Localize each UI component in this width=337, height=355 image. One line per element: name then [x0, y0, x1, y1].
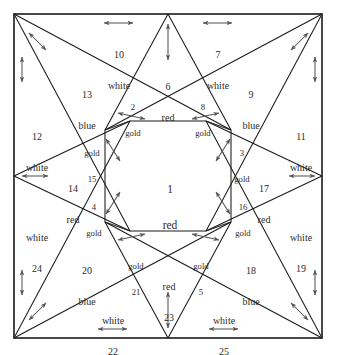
star-construction-lines — [14, 14, 322, 338]
arrow-corner-tr — [291, 33, 308, 50]
arrow-piece-5 — [192, 234, 219, 240]
pattern-linework — [0, 0, 337, 355]
arrow-piece-3 — [216, 139, 230, 161]
arrow-piece-2 — [118, 113, 145, 119]
star-pattern-diagram: 1 red 2 gold 3 gold 4 gold gold 5 6 red … — [0, 0, 337, 355]
arrow-piece-15 — [106, 139, 120, 161]
measurement-arrows — [22, 23, 315, 329]
arrow-piece-4 — [106, 192, 120, 214]
arrow-piece-16 — [216, 192, 230, 214]
arrow-piece-21 — [118, 234, 145, 240]
block-outer-border — [14, 14, 322, 338]
arrow-piece-8 — [192, 113, 219, 119]
arrow-corner-br — [291, 303, 308, 320]
